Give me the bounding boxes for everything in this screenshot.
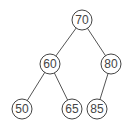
node-65: 65 — [62, 99, 82, 119]
node-label: 50 — [15, 102, 29, 116]
node-label: 60 — [43, 57, 57, 71]
node-label: 85 — [90, 102, 104, 116]
node-label: 80 — [104, 57, 118, 71]
node-label: 65 — [65, 102, 79, 116]
tree-diagram: 70 60 80 50 65 85 — [0, 0, 132, 129]
node-label: 70 — [75, 13, 89, 27]
node-60: 60 — [40, 54, 60, 74]
node-70: 70 — [72, 10, 92, 30]
node-85: 85 — [87, 99, 107, 119]
edges — [22, 20, 111, 109]
node-80: 80 — [101, 54, 121, 74]
node-50: 50 — [12, 99, 32, 119]
